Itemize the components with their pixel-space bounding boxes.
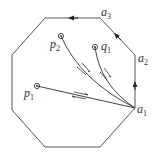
label-a1: a1 <box>137 102 147 118</box>
octagon-boundary <box>12 18 135 147</box>
label-q1: q1 <box>101 39 111 55</box>
diagram-canvas: a1 a2 a3 p1 p2 q1 <box>0 0 158 160</box>
label-p1: p1 <box>23 86 34 102</box>
edge-arrow-a2-a3 <box>116 35 121 40</box>
point-p2 <box>58 33 63 38</box>
label-p2: p2 <box>49 37 60 53</box>
label-a3: a3 <box>101 5 111 21</box>
path-a1-q1 <box>95 47 135 108</box>
label-a2: a2 <box>138 51 148 67</box>
